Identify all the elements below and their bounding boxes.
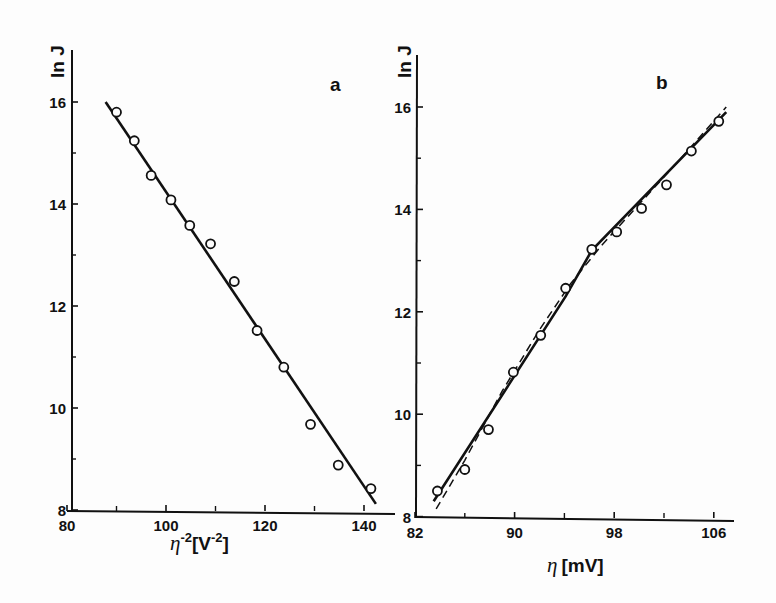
panel-b-y-title: ln J bbox=[394, 45, 415, 78]
data-point bbox=[206, 239, 215, 248]
data-point bbox=[561, 284, 570, 293]
y-tick-label: 12 bbox=[394, 304, 411, 321]
data-point bbox=[509, 368, 518, 377]
panel-b: 810121416 829098106 b ln J η[mV] bbox=[394, 45, 734, 577]
panel-b-x-title: η[mV] bbox=[547, 553, 604, 577]
x-tick-label: 106 bbox=[701, 524, 726, 541]
panel-b-x-axis bbox=[415, 517, 734, 521]
y-tick-label: 16 bbox=[394, 99, 411, 116]
panel-b-label: b bbox=[656, 72, 668, 93]
data-point bbox=[612, 227, 621, 236]
data-point bbox=[587, 245, 596, 254]
data-point bbox=[253, 326, 262, 335]
panel-a-label: a bbox=[330, 74, 341, 95]
data-point bbox=[637, 204, 646, 213]
data-point bbox=[147, 171, 156, 180]
y-tick-label: 14 bbox=[49, 196, 66, 213]
panel-b-x-ticks: 829098106 bbox=[407, 512, 727, 541]
x-tick-label: 90 bbox=[506, 524, 523, 541]
data-point bbox=[166, 195, 175, 204]
data-point bbox=[279, 363, 288, 372]
solid-fit-line bbox=[106, 102, 376, 504]
data-point bbox=[366, 484, 375, 493]
data-point bbox=[334, 461, 343, 470]
panel-a-data-points bbox=[112, 108, 375, 493]
panel-b-fit-lines bbox=[434, 107, 727, 509]
data-point bbox=[662, 180, 671, 189]
data-point bbox=[230, 277, 239, 286]
panel-b-y-axis bbox=[416, 55, 417, 517]
data-point bbox=[112, 108, 121, 117]
data-point bbox=[484, 425, 493, 434]
figure: 810121416 80100120140 a ln J η-2[V-2] 81… bbox=[0, 0, 776, 603]
data-point bbox=[306, 420, 315, 429]
data-point bbox=[536, 331, 545, 340]
x-tick-label: 120 bbox=[252, 517, 277, 534]
x-tick-label: 140 bbox=[351, 517, 376, 534]
data-point bbox=[460, 465, 469, 474]
panel-a-x-title: η-2[V-2] bbox=[170, 530, 229, 555]
data-point bbox=[185, 221, 194, 230]
y-tick-label: 14 bbox=[394, 201, 411, 218]
data-point bbox=[433, 487, 442, 496]
solid-fit-line bbox=[434, 112, 727, 501]
panel-a-y-title: ln J bbox=[47, 45, 68, 78]
y-tick-label: 10 bbox=[394, 406, 411, 423]
panel-a-x-axis bbox=[67, 511, 395, 514]
x-tick-label: 80 bbox=[59, 517, 76, 534]
y-tick-label: 12 bbox=[49, 298, 66, 315]
data-point bbox=[714, 117, 723, 126]
panel-a-fit-lines bbox=[106, 102, 376, 504]
panel-a-y-ticks: 810121416 bbox=[49, 94, 78, 519]
panel-a: 810121416 80100120140 a ln J η-2[V-2] bbox=[47, 45, 395, 555]
panel-b-y-ticks: 810121416 bbox=[394, 99, 423, 526]
data-point bbox=[130, 136, 139, 145]
y-tick-label: 16 bbox=[49, 94, 66, 111]
data-point bbox=[687, 147, 696, 156]
dashed-fit-line bbox=[436, 107, 726, 509]
x-tick-label: 98 bbox=[606, 524, 623, 541]
y-tick-label: 10 bbox=[49, 400, 66, 417]
x-tick-label: 82 bbox=[407, 524, 424, 541]
